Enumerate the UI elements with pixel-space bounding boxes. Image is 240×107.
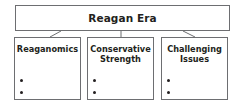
child-node-conservative-strength: Conservative Strength <box>87 37 154 100</box>
bullet-point-icon <box>93 91 96 94</box>
root-node: Reagan Era <box>15 5 230 31</box>
bullet-point-icon <box>20 91 23 94</box>
child-node-label: Conservative Strength <box>88 44 153 64</box>
bullet-point-icon <box>167 91 170 94</box>
bullet-point-icon <box>93 79 96 82</box>
bullet-point-icon <box>167 79 170 82</box>
bullet-point-icon <box>20 79 23 82</box>
child-node-challenging-issues: Challenging Issues <box>161 37 228 100</box>
root-node-label: Reagan Era <box>88 12 156 24</box>
child-node-label: Challenging Issues <box>162 44 227 64</box>
child-node-reaganomics: Reaganomics <box>14 37 81 100</box>
child-node-label: Reaganomics <box>15 44 80 54</box>
